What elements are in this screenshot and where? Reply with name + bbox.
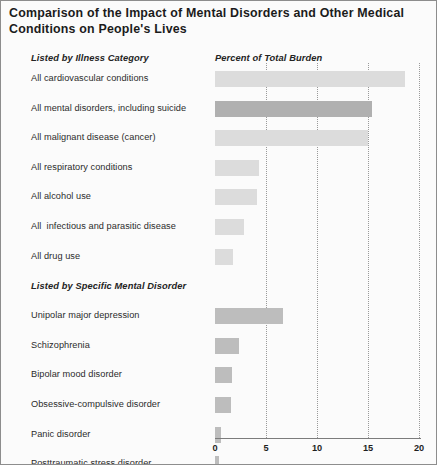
- bar: [215, 71, 405, 87]
- bar: [215, 249, 233, 265]
- gridline-5: [266, 63, 267, 438]
- row-label: Unipolar major depression: [31, 310, 140, 320]
- row-label: Obsessive-compulsive disorder: [31, 399, 160, 409]
- row-label: All infectious and parasitic disease: [31, 221, 176, 231]
- row-label: All alcohol use: [31, 191, 91, 201]
- row-label: All respiratory conditions: [31, 162, 132, 172]
- column-header-category: Listed by Illness Category: [31, 53, 149, 63]
- x-axis-tick-label: 20: [414, 443, 424, 453]
- bar: [215, 160, 259, 176]
- bar: [215, 101, 372, 117]
- x-axis-tick-label: 0: [212, 443, 217, 453]
- chart-plot-area: Listed by Illness Category Percent of To…: [1, 1, 437, 465]
- row-label: Posttraumatic stress disorder: [31, 458, 151, 465]
- row-label: Bipolar mood disorder: [31, 369, 122, 379]
- row-label: Panic disorder: [31, 429, 90, 439]
- row-label: All mental disorders, including suicide: [31, 103, 186, 113]
- row-label: All cardiovascular conditions: [31, 73, 148, 83]
- bar: [215, 397, 231, 413]
- bar: [215, 456, 219, 465]
- x-axis-tick-label: 10: [312, 443, 322, 453]
- bar: [215, 367, 232, 383]
- bar: [215, 130, 368, 146]
- row-label: All drug use: [31, 251, 80, 261]
- bar: [215, 338, 239, 354]
- bar: [215, 189, 257, 205]
- gridline-10: [317, 63, 318, 438]
- x-axis-tick-label: 15: [363, 443, 373, 453]
- x-axis-line: [215, 438, 421, 439]
- bar: [215, 427, 221, 443]
- row-label: All malignant disease (cancer): [31, 132, 156, 142]
- row-label: Schizophrenia: [31, 340, 90, 350]
- gridline-20: [419, 63, 420, 438]
- gridline-15: [368, 63, 369, 438]
- column-header-percent: Percent of Total Burden: [215, 53, 322, 63]
- section-heading-specific-mental-disorder: Listed by Specific Mental Disorder: [31, 281, 186, 291]
- bar: [215, 308, 283, 324]
- chart-figure: Comparison of the Impact of Mental Disor…: [0, 0, 437, 465]
- bar: [215, 219, 244, 235]
- x-axis-tick-label: 5: [263, 443, 268, 453]
